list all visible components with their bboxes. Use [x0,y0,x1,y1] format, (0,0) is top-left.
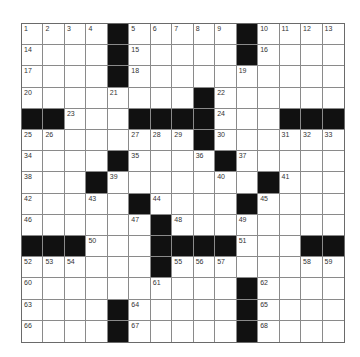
grid-cell[interactable]: 57 [215,257,236,278]
grid-cell[interactable] [323,194,344,215]
grid-cell[interactable]: 2 [43,24,64,45]
grid-cell[interactable] [43,278,64,299]
grid-cell[interactable] [43,172,64,193]
grid-cell[interactable] [43,66,64,87]
grid-cell[interactable] [65,88,86,109]
grid-cell[interactable]: 27 [129,130,150,151]
grid-cell[interactable]: 11 [280,24,301,45]
grid-cell[interactable]: 45 [258,194,279,215]
grid-cell[interactable]: 1 [22,24,43,45]
grid-cell[interactable] [323,278,344,299]
grid-cell[interactable] [151,151,172,172]
grid-cell[interactable] [108,130,129,151]
grid-cell[interactable] [323,151,344,172]
grid-cell[interactable] [301,194,322,215]
grid-cell[interactable] [323,300,344,321]
grid-cell[interactable]: 33 [323,130,344,151]
grid-cell[interactable]: 46 [22,215,43,236]
grid-cell[interactable]: 5 [129,24,150,45]
grid-cell[interactable]: 55 [172,257,193,278]
grid-cell[interactable] [323,215,344,236]
grid-cell[interactable]: 56 [194,257,215,278]
grid-cell[interactable]: 61 [151,278,172,299]
grid-cell[interactable] [301,321,322,342]
grid-cell[interactable]: 64 [129,300,150,321]
grid-cell[interactable] [129,257,150,278]
grid-cell[interactable] [86,215,107,236]
grid-cell[interactable]: 20 [22,88,43,109]
grid-cell[interactable] [108,215,129,236]
grid-cell[interactable] [151,172,172,193]
grid-cell[interactable] [43,321,64,342]
grid-cell[interactable]: 19 [237,66,258,87]
grid-cell[interactable]: 18 [129,66,150,87]
grid-cell[interactable] [65,45,86,66]
grid-cell[interactable] [129,88,150,109]
grid-cell[interactable] [280,300,301,321]
grid-cell[interactable] [215,66,236,87]
grid-cell[interactable]: 53 [43,257,64,278]
grid-cell[interactable] [172,172,193,193]
grid-cell[interactable] [43,45,64,66]
grid-cell[interactable] [65,278,86,299]
grid-cell[interactable]: 14 [22,45,43,66]
grid-cell[interactable]: 16 [258,45,279,66]
grid-cell[interactable]: 47 [129,215,150,236]
grid-cell[interactable] [323,321,344,342]
grid-cell[interactable] [280,194,301,215]
grid-cell[interactable] [86,45,107,66]
grid-cell[interactable] [43,151,64,172]
grid-cell[interactable] [129,236,150,257]
grid-cell[interactable] [280,88,301,109]
grid-cell[interactable] [108,109,129,130]
grid-cell[interactable] [151,300,172,321]
grid-cell[interactable] [86,300,107,321]
grid-cell[interactable] [323,172,344,193]
grid-cell[interactable]: 43 [86,194,107,215]
grid-cell[interactable] [323,66,344,87]
grid-cell[interactable]: 29 [172,130,193,151]
grid-cell[interactable] [172,194,193,215]
grid-cell[interactable]: 35 [129,151,150,172]
grid-cell[interactable] [323,88,344,109]
grid-cell[interactable] [194,321,215,342]
grid-cell[interactable] [151,66,172,87]
grid-cell[interactable]: 10 [258,24,279,45]
grid-cell[interactable] [258,215,279,236]
grid-cell[interactable] [86,278,107,299]
grid-cell[interactable] [65,130,86,151]
grid-cell[interactable] [151,321,172,342]
grid-cell[interactable] [237,257,258,278]
grid-cell[interactable]: 22 [215,88,236,109]
grid-cell[interactable] [108,257,129,278]
grid-cell[interactable] [86,151,107,172]
grid-cell[interactable]: 28 [151,130,172,151]
grid-cell[interactable] [258,66,279,87]
grid-cell[interactable] [280,66,301,87]
grid-cell[interactable] [65,300,86,321]
grid-cell[interactable] [237,109,258,130]
grid-cell[interactable] [280,215,301,236]
grid-cell[interactable] [258,109,279,130]
grid-cell[interactable]: 48 [172,215,193,236]
grid-cell[interactable] [172,88,193,109]
grid-cell[interactable] [172,151,193,172]
grid-cell[interactable]: 52 [22,257,43,278]
grid-cell[interactable]: 32 [301,130,322,151]
grid-cell[interactable]: 41 [280,172,301,193]
grid-cell[interactable] [108,278,129,299]
grid-cell[interactable] [301,215,322,236]
grid-cell[interactable]: 23 [65,109,86,130]
grid-cell[interactable]: 40 [215,172,236,193]
grid-cell[interactable] [215,278,236,299]
grid-cell[interactable]: 36 [194,151,215,172]
grid-cell[interactable]: 3 [65,24,86,45]
grid-cell[interactable] [280,45,301,66]
grid-cell[interactable]: 25 [22,130,43,151]
grid-cell[interactable] [258,151,279,172]
grid-cell[interactable] [258,130,279,151]
grid-cell[interactable]: 39 [108,172,129,193]
grid-cell[interactable] [86,109,107,130]
grid-cell[interactable] [65,172,86,193]
grid-cell[interactable] [215,321,236,342]
